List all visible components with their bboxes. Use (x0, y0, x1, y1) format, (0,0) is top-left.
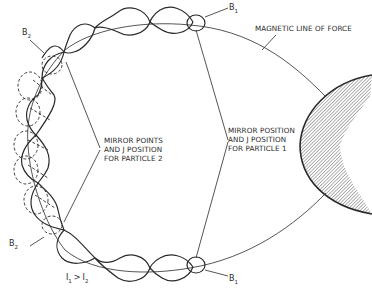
label-b1-bottom: B1 (229, 274, 238, 285)
label-particle1-line2: AND J POSITION (228, 135, 286, 144)
label-b1-top: B1 (229, 3, 238, 14)
label-magnetic-line-of-force: MAGNETIC LINE OF FORCE (255, 24, 352, 33)
particle-2-dashed-orbits (14, 56, 62, 234)
label-b2-bottom: B2 (9, 239, 18, 250)
label-inequality: I1>I2 (66, 273, 88, 284)
earth-shape (300, 75, 372, 214)
magnetic-mirror-diagram: MAGNETIC LINE OF FORCE MIRROR POINTS AND… (0, 0, 372, 292)
label-b2-top: B2 (22, 28, 31, 39)
label-particle2-line1: MIRROR POINTS (104, 136, 163, 145)
particle-1-trajectory (42, 7, 205, 58)
label-particle2-line3: FOR PARTICLE 2 (104, 154, 163, 163)
label-particle1-line3: FOR PARTICLE 1 (228, 144, 287, 153)
label-particle2-line2: AND J POSITION (104, 145, 162, 154)
label-particle1-line1: MIRROR POSITION (228, 126, 295, 135)
